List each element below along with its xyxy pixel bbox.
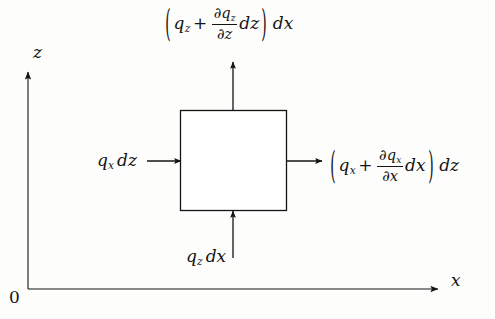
left-flux-label: qxdz <box>97 152 137 170</box>
partial-symbol-den: ∂ <box>382 167 390 184</box>
q-subscript: z <box>185 22 191 34</box>
q-subscript: x <box>108 159 114 171</box>
origin-label: 0 <box>9 289 20 306</box>
inner-differential: dx <box>405 155 425 175</box>
partial-symbol: ∂ <box>379 146 387 163</box>
top-flux-label: (qz+ ∂qz ∂z dz)dx <box>163 6 293 43</box>
fraction-numerator: ∂qz <box>212 5 237 24</box>
z-axis-label: z <box>33 44 42 61</box>
numerator-q: q <box>221 4 230 21</box>
right-flux-label: (qx+ ∂qx ∂x dx)dz <box>328 148 459 185</box>
fraction-denominator: ∂x <box>377 168 403 184</box>
differential: dx <box>206 246 226 266</box>
outer-differential: dz <box>439 155 459 175</box>
numerator-subscript: z <box>231 13 236 23</box>
numerator-q: q <box>387 146 396 163</box>
q-symbol: q <box>174 13 185 33</box>
q-symbol: q <box>186 246 197 266</box>
outer-differential: dx <box>273 13 293 33</box>
denominator-var: x <box>390 167 398 184</box>
numerator-subscript: x <box>396 155 401 165</box>
bottom-flux-label: qzdx <box>186 248 226 266</box>
denominator-var: z <box>225 25 233 42</box>
open-paren: ( <box>331 147 336 184</box>
partial-symbol-den: ∂ <box>217 25 225 42</box>
control-volume-square <box>181 111 287 211</box>
figure-canvas: (qz+ ∂qz ∂z dz)dx (qx+ ∂qx ∂x dx)dz qxdz… <box>0 0 495 319</box>
partial-derivative-fraction: ∂qx ∂x <box>377 147 403 184</box>
open-paren: ( <box>166 5 171 42</box>
x-axis-label: x <box>451 272 461 289</box>
close-paren: ) <box>262 5 267 42</box>
fraction-denominator: ∂z <box>212 26 237 42</box>
partial-derivative-fraction: ∂qz ∂z <box>212 5 237 42</box>
q-symbol: q <box>339 155 350 175</box>
plus-operator: + <box>358 155 372 175</box>
fraction-numerator: ∂qx <box>377 147 403 166</box>
differential: dz <box>117 150 137 170</box>
inner-differential: dz <box>239 13 259 33</box>
close-paren: ) <box>428 147 433 184</box>
q-symbol: q <box>97 150 108 170</box>
q-subscript: x <box>350 164 356 176</box>
q-subscript: z <box>197 255 203 267</box>
plus-operator: + <box>193 13 207 33</box>
